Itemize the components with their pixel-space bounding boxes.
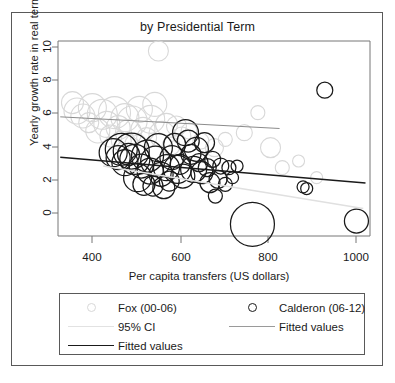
data-point xyxy=(293,155,305,167)
data-point xyxy=(311,172,323,184)
series-fox-points xyxy=(61,41,322,184)
chart-figure: by Presidential Term Yearly growth rate … xyxy=(0,0,395,383)
data-point xyxy=(143,92,167,116)
tick-marks xyxy=(52,47,356,243)
legend-entry-fitted-fox: Fitted values xyxy=(225,318,344,335)
data-point xyxy=(148,41,168,61)
data-point xyxy=(231,160,243,172)
legend-entry-ci: 95% CI xyxy=(64,318,155,335)
legend-key-calderon-circle-icon xyxy=(225,299,279,316)
legend-entry-calderon: Calderon (06-12) xyxy=(225,299,365,316)
legend-entry-fox: Fox (00-06) xyxy=(64,299,177,316)
legend-label-fox: Fox (00-06) xyxy=(118,302,177,314)
legend-label-ci: 95% CI xyxy=(118,321,155,333)
chart-legend: Fox (00-06) Calderon (06-12) 95% CI Fitt… xyxy=(59,293,365,355)
data-point xyxy=(301,183,313,195)
legend-label-fitted-fox: Fitted values xyxy=(279,321,344,333)
legend-entry-fitted-calderon: Fitted values xyxy=(64,337,183,354)
data-point xyxy=(195,133,215,153)
legend-key-fitted-fox-line-icon xyxy=(225,318,279,335)
data-point xyxy=(230,202,274,246)
data-point xyxy=(344,209,368,233)
data-point xyxy=(218,132,232,146)
data-point xyxy=(317,82,333,98)
legend-label-fitted-calderon: Fitted values xyxy=(118,340,183,352)
data-point xyxy=(261,138,281,158)
legend-key-fitted-calderon-line-icon xyxy=(64,337,118,354)
data-point xyxy=(251,106,265,120)
data-point xyxy=(275,161,289,175)
legend-key-ci-line-icon xyxy=(64,318,118,335)
legend-label-calderon: Calderon (06-12) xyxy=(279,302,365,314)
legend-key-fox-circle-icon xyxy=(64,299,118,316)
